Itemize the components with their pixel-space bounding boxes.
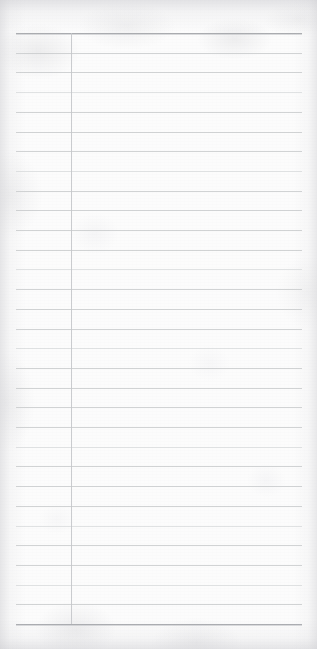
margin-rule-group [0,0,317,649]
vertical-margin-rule-line [71,33,72,624]
notebook-paper-page [0,0,317,649]
